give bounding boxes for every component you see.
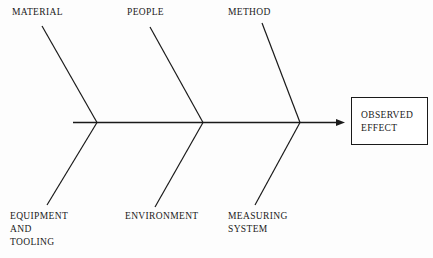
category-label-environment: ENVIRONMENT <box>125 210 199 223</box>
category-label-method: METHOD <box>228 6 271 19</box>
bone-equipment-and-tooling <box>47 123 97 206</box>
observed-effect-label: OBSERVED EFFECT <box>361 109 413 135</box>
category-label-material: MATERIAL <box>12 6 63 19</box>
fishbone-diagram: MATERIAL PEOPLE METHOD EQUIPMENT AND TOO… <box>0 0 433 258</box>
bone-material <box>42 26 97 123</box>
bone-people <box>150 27 203 123</box>
observed-effect-box: OBSERVED EFFECT <box>351 97 428 145</box>
category-label-equipment-and-tooling: EQUIPMENT AND TOOLING <box>10 210 68 249</box>
bone-environment <box>155 123 203 208</box>
bone-method <box>262 23 300 123</box>
category-label-people: PEOPLE <box>127 6 164 19</box>
category-label-measuring-system: MEASURING SYSTEM <box>228 210 288 236</box>
bone-measuring-system <box>255 123 300 206</box>
